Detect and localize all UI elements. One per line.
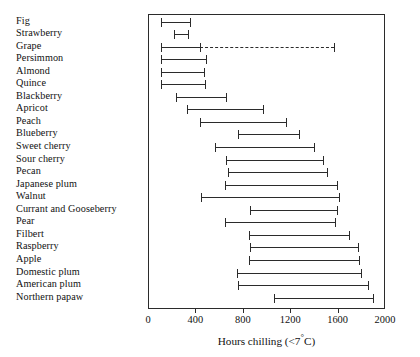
x-axis-tick [338, 309, 339, 313]
range-segment-solid [161, 47, 200, 48]
range-cap-low [249, 231, 250, 240]
range-bar [149, 192, 384, 203]
range-bar [149, 67, 384, 78]
range-bar [149, 42, 384, 53]
category-label: Currant and Gooseberry [16, 203, 142, 214]
range-cap-low [200, 118, 201, 127]
category-label: Apple [16, 253, 142, 264]
range-segment-solid [228, 172, 328, 173]
range-cap-high [335, 218, 336, 227]
range-cap-low [161, 55, 162, 64]
range-bar [149, 167, 384, 178]
x-axis-tick [195, 309, 196, 313]
range-cap-low [174, 30, 175, 39]
x-axis-title-text: Hours chilling (<7 [218, 335, 301, 347]
range-cap-high [286, 118, 287, 127]
category-label: Raspberry [16, 240, 142, 251]
range-bar [149, 205, 384, 216]
category-label: Apricot [16, 102, 142, 113]
range-segment-dashed [200, 47, 334, 48]
range-bar [149, 17, 384, 28]
range-bar [149, 293, 384, 304]
range-bar [149, 54, 384, 65]
range-segment-solid [176, 97, 226, 98]
range-cap-high [339, 193, 340, 202]
range-bar [149, 29, 384, 40]
x-axis-tick-label: 1600 [327, 314, 348, 326]
range-bar [149, 117, 384, 128]
range-cap-high [349, 231, 350, 240]
range-cap-low [228, 168, 229, 177]
category-label: American plum [16, 278, 142, 289]
category-label: Walnut [16, 190, 142, 201]
category-label: Almond [16, 65, 142, 76]
range-cap-low [238, 130, 239, 139]
range-cap-low [215, 143, 216, 152]
category-label-column: FigStrawberryGrapePersimmonAlmondQuinceB… [0, 0, 144, 300]
x-axis-tick-label: 2000 [375, 314, 396, 326]
range-cap-high [200, 43, 201, 52]
category-label: Persimmon [16, 52, 142, 63]
range-segment-solid [174, 34, 188, 35]
range-bar [149, 255, 384, 266]
category-label: Grape [16, 40, 142, 51]
range-cap-high [190, 18, 191, 27]
range-cap-low [161, 68, 162, 77]
range-segment-solid [215, 147, 314, 148]
category-label: Japanese plum [16, 178, 142, 189]
category-label: Blackberry [16, 90, 142, 101]
range-cap-low [249, 256, 250, 265]
range-cap-high [337, 206, 338, 215]
range-cap-low [201, 193, 202, 202]
category-label: Northern papaw [16, 291, 142, 302]
range-cap-high [263, 105, 264, 114]
category-label: Quince [16, 77, 142, 88]
x-axis-tick [290, 309, 291, 313]
range-segment-solid [225, 185, 337, 186]
range-bar [149, 217, 384, 228]
range-segment-solid [249, 260, 359, 261]
range-cap-low [225, 181, 226, 190]
x-axis-tick-label: 1200 [280, 314, 301, 326]
range-bar [149, 280, 384, 291]
range-cap-low [161, 18, 162, 27]
range-cap-low [274, 294, 275, 303]
range-bar [149, 129, 384, 140]
range-cap-high [373, 294, 374, 303]
range-cap-high [337, 181, 338, 190]
range-cap-low [250, 206, 251, 215]
x-axis-tick [243, 309, 244, 313]
category-label: Fig [16, 15, 142, 26]
range-bar [149, 92, 384, 103]
x-axis-tick-label: 0 [145, 314, 150, 326]
range-cap-low [187, 105, 188, 114]
range-cap-high [361, 269, 362, 278]
range-bar [149, 268, 384, 279]
range-segment-solid [187, 109, 263, 110]
x-axis-title-unit: C) [304, 335, 315, 347]
range-cap-high [323, 156, 324, 165]
range-cap-high [368, 281, 369, 290]
range-bar [149, 155, 384, 166]
category-label: Strawberry [16, 27, 142, 38]
category-label: Sweet cherry [16, 140, 142, 151]
range-cap-high [226, 93, 227, 102]
range-bar [149, 104, 384, 115]
range-cap-low [176, 93, 177, 102]
range-cap-low [226, 156, 227, 165]
range-segment-solid [161, 84, 205, 85]
category-label: Domestic plum [16, 266, 142, 277]
range-segment-solid [237, 273, 361, 274]
range-segment-solid [161, 59, 206, 60]
range-segment-solid [274, 298, 373, 299]
category-label: Pecan [16, 165, 142, 176]
range-segment-solid [238, 134, 299, 135]
range-cap-high [299, 130, 300, 139]
range-cap-low [161, 80, 162, 89]
range-cap-low [250, 243, 251, 252]
x-axis-title: Hours chilling (<7°C) [148, 332, 385, 347]
category-label: Sour cherry [16, 153, 142, 164]
range-segment-solid [161, 72, 204, 73]
range-segment-solid [250, 247, 358, 248]
range-bar [149, 180, 384, 191]
